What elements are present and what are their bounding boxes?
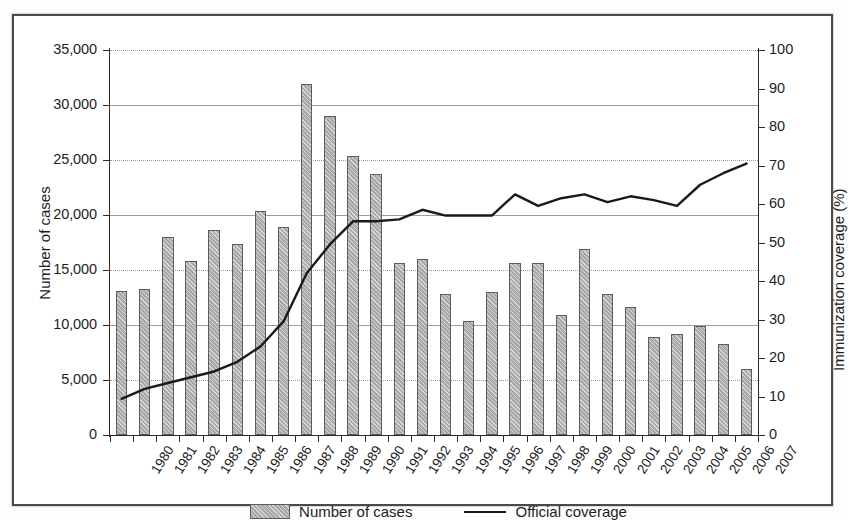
left-axis-tick <box>103 215 110 216</box>
bar-1982 <box>162 237 174 435</box>
right-axis-tick-label: 70 <box>769 157 785 173</box>
x-axis-tick <box>434 435 435 442</box>
x-axis-tick <box>272 435 273 442</box>
left-axis-tick <box>103 50 110 51</box>
x-axis-label-1991: 1991 <box>402 443 431 476</box>
x-axis-tick <box>318 435 319 442</box>
right-axis-tick-label: 100 <box>769 41 793 57</box>
left-axis-tick-label: 20,000 <box>14 206 97 222</box>
x-axis-label-1983: 1983 <box>217 443 246 476</box>
left-axis-tick <box>103 105 110 106</box>
x-axis-label-1997: 1997 <box>541 443 570 476</box>
x-axis-tick <box>341 435 342 442</box>
left-axis-tick-label: 30,000 <box>14 96 97 112</box>
line-swatch-icon <box>464 511 506 513</box>
x-axis-tick <box>712 435 713 442</box>
left-axis-tick-label: 25,000 <box>14 151 97 167</box>
bar-1988 <box>301 84 313 435</box>
left-axis-tick-label: 10,000 <box>14 316 97 332</box>
x-axis-label-1996: 1996 <box>518 443 547 476</box>
bar-2006 <box>718 344 730 435</box>
x-axis-label-1982: 1982 <box>194 443 223 476</box>
x-axis-label-1995: 1995 <box>495 443 524 476</box>
right-axis-title: Immunization coverage (%) <box>830 71 847 371</box>
right-axis-tick <box>758 243 765 244</box>
right-axis-tick <box>758 50 765 51</box>
left-axis-line <box>109 48 110 437</box>
x-axis-label-1989: 1989 <box>356 443 385 476</box>
bar-1997 <box>509 263 521 435</box>
plot-area <box>110 50 758 435</box>
bar-2000 <box>579 249 591 435</box>
legend-item-cases: Number of cases <box>250 503 412 520</box>
x-axis-tick <box>758 435 759 442</box>
legend-item-coverage: Official coverage <box>464 503 626 520</box>
x-axis-tick <box>388 435 389 442</box>
x-axis-label-2001: 2001 <box>634 443 663 476</box>
right-axis-tick-label: 90 <box>769 80 785 96</box>
x-axis-label-2000: 2000 <box>611 443 640 476</box>
bar-1986 <box>255 211 267 435</box>
bar-1989 <box>324 116 336 435</box>
x-axis-label-2007: 2007 <box>773 443 802 476</box>
right-axis-tick-label: 20 <box>769 349 785 365</box>
right-axis-tick <box>758 281 765 282</box>
bar-1999 <box>556 315 568 435</box>
chart-legend: Number of cases Official coverage <box>14 503 849 520</box>
right-axis-tick <box>758 435 765 436</box>
gridline <box>110 270 758 271</box>
x-axis-label-2005: 2005 <box>726 443 755 476</box>
x-axis-label-1992: 1992 <box>425 443 454 476</box>
right-axis-tick <box>758 127 765 128</box>
x-axis-label-1988: 1988 <box>333 443 362 476</box>
legend-label-coverage: Official coverage <box>515 503 626 520</box>
x-axis-tick <box>503 435 504 442</box>
left-axis-tick-label: 35,000 <box>14 41 97 57</box>
bar-2004 <box>671 334 683 435</box>
x-axis-tick <box>689 435 690 442</box>
x-axis-tick <box>365 435 366 442</box>
bar-1995 <box>463 321 475 435</box>
gridline <box>110 325 758 326</box>
x-axis-label-1986: 1986 <box>287 443 316 476</box>
bar-2001 <box>602 294 614 435</box>
x-axis-tick <box>642 435 643 442</box>
right-axis-tick-label: 0 <box>769 426 777 442</box>
x-axis-label-1998: 1998 <box>564 443 593 476</box>
x-axis-tick <box>527 435 528 442</box>
gridline <box>110 105 758 106</box>
x-axis-label-1985: 1985 <box>263 443 292 476</box>
x-axis-tick <box>619 435 620 442</box>
x-axis-tick <box>480 435 481 442</box>
chart-frame: Number of cases Immunization coverage (%… <box>12 14 833 506</box>
x-axis-tick <box>457 435 458 442</box>
x-axis-tick <box>735 435 736 442</box>
right-axis-tick-label: 10 <box>769 388 785 404</box>
right-axis-tick-label: 40 <box>769 272 785 288</box>
x-axis-label-1981: 1981 <box>171 443 200 476</box>
left-axis-tick-label: 0 <box>14 426 97 442</box>
legend-label-cases: Number of cases <box>299 503 412 520</box>
bar-2002 <box>625 307 637 435</box>
gridline <box>110 50 758 51</box>
right-axis-tick <box>758 204 765 205</box>
chart-figure: Number of cases Immunization coverage (%… <box>0 0 849 521</box>
right-axis-tick-label: 50 <box>769 234 785 250</box>
right-axis-tick <box>758 320 765 321</box>
right-axis-tick <box>758 358 765 359</box>
left-axis-title: Number of cases <box>36 148 53 338</box>
bar-2003 <box>648 337 660 435</box>
bar-1983 <box>185 261 197 435</box>
bar-1981 <box>139 289 151 435</box>
x-axis-tick <box>226 435 227 442</box>
x-axis-label-1994: 1994 <box>472 443 501 476</box>
x-axis-label-1980: 1980 <box>148 443 177 476</box>
x-axis-tick <box>550 435 551 442</box>
bar-1991 <box>370 174 382 435</box>
left-axis-tick <box>103 325 110 326</box>
right-axis-tick <box>758 397 765 398</box>
x-axis-tick <box>573 435 574 442</box>
left-axis-tick-label: 15,000 <box>14 261 97 277</box>
x-axis-label-1987: 1987 <box>310 443 339 476</box>
x-axis-label-2006: 2006 <box>749 443 778 476</box>
